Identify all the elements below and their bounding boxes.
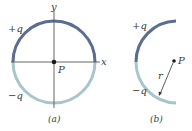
- point-label-b: P: [177, 55, 185, 66]
- x-axis-label: x: [101, 56, 107, 67]
- y-axis-label: y: [50, 1, 57, 12]
- negative-quarter-arc: [136, 62, 176, 103]
- positive-charge-label-a: +q: [8, 23, 23, 34]
- radius-arrowhead: [159, 92, 162, 97]
- point-label-a: P: [57, 64, 65, 75]
- figure-b: P r +q −q (b): [132, 20, 185, 124]
- caption-a: (a): [48, 114, 61, 124]
- caption-b: (b): [150, 114, 163, 124]
- negative-charge-label-a: −q: [8, 90, 23, 101]
- positive-charge-label-b: +q: [132, 20, 147, 31]
- figure-a: x y P +q −q (a): [8, 1, 107, 124]
- point-p-a: [52, 60, 57, 65]
- radius-label: r: [158, 70, 164, 81]
- point-p-b: [172, 59, 176, 63]
- negative-charge-label-b: −q: [132, 85, 147, 96]
- charged-rings-diagram: x y P +q −q (a) P r +q −q (b): [0, 0, 192, 131]
